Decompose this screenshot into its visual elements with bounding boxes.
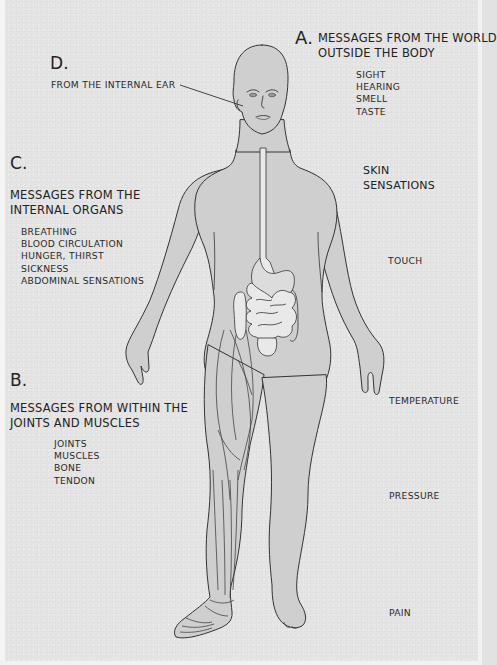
section-d-label: FROM THE INTERNAL EAR (51, 80, 175, 89)
section-a-item: SMELL (356, 93, 400, 105)
section-b-item: BONE (54, 462, 100, 474)
section-c-heading-line1: MESSAGES FROM THE (10, 188, 140, 203)
section-b-heading-line1: MESSAGES FROM WITHIN THE (10, 401, 188, 416)
skin-heading-line1: SKIN (363, 163, 435, 178)
section-c-item: SICKNESS (21, 263, 144, 275)
section-b-item: MUSCLES (54, 450, 100, 462)
section-c-items: BREATHING BLOOD CIRCULATION HUNGER, THIR… (21, 226, 144, 287)
section-c-heading: MESSAGES FROM THE INTERNAL ORGANS (10, 188, 140, 218)
skin-item-touch: TOUCH (388, 256, 422, 265)
section-b-heading: MESSAGES FROM WITHIN THE JOINTS AND MUSC… (10, 401, 188, 431)
section-c-item: HUNGER, THIRST (21, 250, 144, 262)
section-b-item: TENDON (54, 475, 100, 487)
section-a-item: HEARING (356, 81, 400, 93)
section-b-letter: B. (10, 372, 27, 389)
section-a-letter: A. (295, 29, 313, 47)
section-c-item: BREATHING (21, 226, 144, 238)
skin-item-pressure: PRESSURE (389, 491, 440, 500)
skin-item-pain: PAIN (389, 608, 411, 617)
right-leg (262, 375, 327, 628)
section-a-item: SIGHT (356, 69, 400, 81)
skin-item-temperature: TEMPERATURE (389, 396, 459, 405)
section-c-item: BLOOD CIRCULATION (21, 238, 144, 250)
section-c-item: ABDOMINAL SENSATIONS (21, 275, 144, 287)
skin-heading-line2: SENSATIONS (363, 178, 435, 193)
left-leg-dissected (174, 345, 264, 638)
section-b-item: JOINTS (54, 438, 100, 450)
section-a-heading: MESSAGES FROM THE WORLD OUTSIDE THE BODY (318, 31, 497, 61)
section-a-heading-line1: MESSAGES FROM THE WORLD (318, 31, 497, 46)
section-c-heading-line2: INTERNAL ORGANS (10, 203, 140, 218)
section-d-letter: D. (50, 55, 69, 72)
section-a-heading-line2: OUTSIDE THE BODY (318, 46, 497, 61)
skin-sensations-heading: SKIN SENSATIONS (363, 163, 435, 193)
section-b-items: JOINTS MUSCLES BONE TENDON (54, 438, 100, 487)
section-b-heading-line2: JOINTS AND MUSCLES (10, 416, 188, 431)
section-c-letter: C. (10, 155, 28, 172)
section-a-item: TASTE (356, 106, 400, 118)
section-a-items: SIGHT HEARING SMELL TASTE (356, 69, 400, 118)
